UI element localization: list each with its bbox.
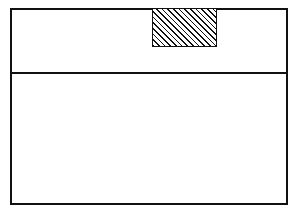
lower-compartment	[12, 74, 286, 203]
diagonal-hatch-pattern	[153, 9, 216, 46]
hatched-block	[152, 8, 217, 47]
figure-canvas	[0, 0, 296, 213]
upper-compartment	[12, 10, 286, 72]
